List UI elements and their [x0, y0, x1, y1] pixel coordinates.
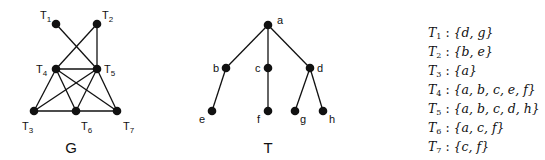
bag-row: T6 : {a, c, f} — [428, 120, 540, 139]
tree-t-node-g — [291, 107, 300, 116]
graph-g-node-t5 — [93, 65, 102, 74]
bag-name: T1 — [428, 25, 441, 40]
bag-name: T6 — [428, 120, 441, 135]
bag-set: {a} — [454, 63, 477, 78]
tree-t-node-f — [264, 107, 273, 116]
tree-t-node-label: f — [257, 113, 261, 125]
tree-t-edge — [268, 25, 310, 68]
bag-set: {b, e} — [454, 44, 493, 59]
tree-t-edge — [226, 25, 268, 68]
graph-g-node-label: T1 — [40, 9, 52, 24]
graph-g-node-t2 — [93, 20, 102, 29]
tree-t-node-a — [264, 21, 273, 30]
graph-g-node-t7 — [113, 107, 122, 116]
tree-t-node-d — [306, 64, 315, 73]
tree-t-node-c — [264, 64, 273, 73]
bag-name: T3 — [428, 63, 441, 78]
tree-t-node-e — [208, 107, 217, 116]
tree-t-node-label: h — [329, 113, 335, 125]
bag-set: {a, c, f} — [454, 120, 505, 135]
tree-t-nodes: abcdefgh — [199, 14, 335, 125]
graph-g-node-label: T4 — [36, 63, 48, 78]
tree-t-node-label: a — [277, 14, 284, 26]
graph-g-node-t3 — [30, 107, 39, 116]
graph-g-nodes: T1T2T4T5T3T6T7 — [22, 9, 135, 135]
bag-set: {a, b, c, e, f} — [454, 82, 536, 97]
bag-set: {c, f} — [454, 139, 489, 154]
bag-row: T5 : {a, b, c, d, h} — [428, 101, 540, 120]
bag-row: T3 : {a} — [428, 63, 540, 82]
tree-t-node-h — [319, 107, 328, 116]
tree-t-node-label: e — [199, 113, 205, 125]
graph-g-node-label: T5 — [104, 63, 116, 78]
bag-row: T2 : {b, e} — [428, 44, 540, 63]
bag-row: T4 : {a, b, c, e, f} — [428, 82, 540, 101]
graph-g-node-label: T6 — [81, 120, 93, 135]
graph-g-node-label: T2 — [102, 9, 114, 24]
tree-t-node-label: c — [255, 62, 261, 74]
bag-set: {d, g} — [454, 25, 494, 40]
graph-g-caption: G — [65, 139, 77, 156]
tree-t-node-label: d — [317, 62, 323, 74]
tree-t-edge — [310, 68, 323, 111]
bag-row: T7 : {c, f} — [428, 139, 540, 158]
graph-g-node-label: T3 — [22, 120, 34, 135]
tree-t-caption: T — [263, 139, 272, 156]
bag-name: T7 — [428, 139, 441, 154]
bag-list: T1 : {d, g}T2 : {b, e}T3 : {a}T4 : {a, b… — [428, 25, 540, 158]
graph-g-node-label: T7 — [123, 120, 135, 135]
bag-row: T1 : {d, g} — [428, 25, 540, 44]
tree-t-node-label: b — [213, 62, 219, 74]
graph-g-node-t6 — [72, 107, 81, 116]
tree-t-node-label: g — [300, 113, 306, 125]
tree-t-edge — [295, 68, 310, 111]
tree-t-edge — [212, 68, 226, 111]
bag-name: T4 — [428, 82, 441, 97]
bag-set: {a, b, c, d, h} — [454, 101, 540, 116]
graph-g-node-t1 — [52, 20, 61, 29]
tree-t-node-b — [222, 64, 231, 73]
bag-name: T5 — [428, 101, 441, 116]
graph-g-node-t4 — [52, 65, 61, 74]
bag-name: T2 — [428, 44, 441, 59]
